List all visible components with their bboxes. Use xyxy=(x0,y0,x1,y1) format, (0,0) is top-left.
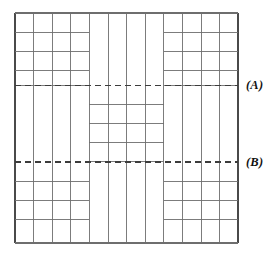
reference-line-label-b: (B) xyxy=(246,156,263,169)
reference-line-label-a: (A) xyxy=(246,79,263,92)
grid-diagram-figure: (A) (B) xyxy=(0,0,274,258)
grid-lines-group xyxy=(15,13,238,243)
diagram-canvas xyxy=(0,0,274,258)
